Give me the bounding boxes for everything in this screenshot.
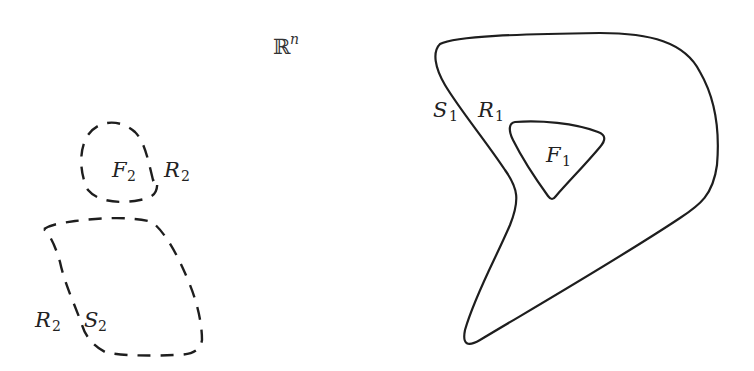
label-s2: S 2 bbox=[84, 308, 107, 334]
label-f1: F 1 bbox=[545, 143, 571, 169]
label-f1-main: F bbox=[545, 143, 562, 167]
dashed-boundary-s2 bbox=[44, 218, 202, 355]
label-f2: F 2 bbox=[111, 158, 136, 184]
space-exponent: n bbox=[290, 31, 299, 47]
label-f2-sub: 2 bbox=[127, 168, 136, 184]
label-f2-main: F bbox=[111, 158, 128, 182]
label-r2-upper-sub: 2 bbox=[181, 168, 190, 184]
label-r2-upper-main: R bbox=[163, 158, 180, 182]
label-s1-main: S bbox=[433, 98, 447, 122]
label-r1: R 1 bbox=[477, 98, 504, 124]
space-symbol: ℝ bbox=[273, 35, 291, 59]
label-r2-lower-sub: 2 bbox=[52, 318, 61, 334]
label-r1-sub: 1 bbox=[495, 108, 504, 124]
label-r2-lower-main: R bbox=[34, 308, 51, 332]
label-r1-main: R bbox=[477, 98, 494, 122]
diagram-canvas: ℝ n S 1 R 1 F 1 F 2 R 2 R 2 S 2 bbox=[0, 0, 754, 371]
label-s2-main: S bbox=[84, 308, 98, 332]
label-s2-sub: 2 bbox=[98, 318, 107, 334]
label-r2-lower: R 2 bbox=[34, 308, 61, 334]
label-r2-upper: R 2 bbox=[163, 158, 190, 184]
label-s1-sub: 1 bbox=[449, 108, 458, 124]
label-s1: S 1 bbox=[433, 98, 458, 124]
outer-boundary-s1 bbox=[435, 33, 717, 344]
space-label: ℝ n bbox=[273, 31, 299, 59]
label-f1-sub: 1 bbox=[562, 153, 571, 169]
